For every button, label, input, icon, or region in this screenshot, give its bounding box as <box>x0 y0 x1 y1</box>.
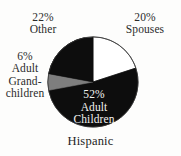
pie-chart-figure: 22% Other 20% Spouses 6% Adult Grand- ch… <box>0 0 181 156</box>
slice-label-other: 22% Other <box>14 11 72 36</box>
slice-label-adult-grandchildren-line3: children <box>0 87 50 99</box>
slice-label-spouses: 20% Spouses <box>113 11 177 36</box>
slice-label-adult-children-line2: Children <box>56 113 132 126</box>
slice-label-adult-grandchildren-line1: Adult <box>0 62 50 74</box>
slice-label-spouses-name: Spouses <box>113 23 177 35</box>
slice-label-other-percent: 22% <box>14 11 72 23</box>
slice-label-spouses-percent: 20% <box>113 11 177 23</box>
slice-label-adult-grandchildren-line2: Grand- <box>0 75 50 87</box>
slice-label-adult-grandchildren: 6% Adult Grand- children <box>0 50 50 100</box>
slice-label-adult-grandchildren-percent: 6% <box>0 50 50 62</box>
slice-label-adult-children-percent: 52% <box>56 88 132 101</box>
slice-label-adult-children: 52% Adult Children <box>56 88 132 126</box>
figure-caption: Hispanic <box>0 134 181 149</box>
slice-label-other-name: Other <box>14 23 72 35</box>
slice-label-adult-children-line1: Adult <box>56 101 132 114</box>
